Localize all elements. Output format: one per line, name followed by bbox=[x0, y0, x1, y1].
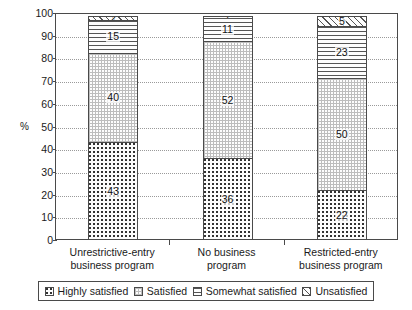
bar-value-label: 22 bbox=[335, 210, 349, 221]
legend-swatch-pattern bbox=[303, 288, 310, 295]
y-tick-label: 50 bbox=[27, 122, 53, 132]
stacked-bar-chart: % 1009080706050403020100 215404311152365… bbox=[0, 0, 412, 310]
bar-segment: 11 bbox=[203, 17, 253, 42]
bar-value-label: 23 bbox=[335, 47, 349, 58]
y-tick-label: 0 bbox=[27, 235, 53, 245]
bar-value-label: 11 bbox=[221, 24, 234, 35]
y-tick-label: 20 bbox=[27, 190, 53, 200]
bar-value-label: 43 bbox=[106, 186, 120, 197]
y-axis-ticks: 1009080706050403020100 bbox=[22, 13, 53, 240]
stacked-bar: 5235022 bbox=[317, 16, 367, 239]
legend-label: Satisfied bbox=[147, 285, 187, 297]
legend-swatch-icon bbox=[193, 287, 202, 296]
legend-swatch-pattern bbox=[46, 288, 53, 295]
bar-segment: 22 bbox=[317, 190, 367, 240]
bar-segment: 36 bbox=[203, 158, 253, 240]
chart-legend: Highly satisfiedSatisfiedSomewhat satisf… bbox=[38, 281, 374, 301]
y-tick-label: 100 bbox=[27, 8, 53, 18]
legend-item[interactable]: Satisfied bbox=[134, 285, 187, 297]
legend-label: Unsatisfied bbox=[315, 285, 367, 297]
bar-segment: 5 bbox=[317, 16, 367, 27]
legend-swatch-icon bbox=[302, 287, 311, 296]
plot-area: 215404311152365235022 bbox=[55, 13, 398, 240]
y-tick-label: 80 bbox=[27, 53, 53, 63]
y-tick-label: 40 bbox=[27, 144, 53, 154]
bar-segment: 15 bbox=[88, 20, 138, 54]
bar-value-label: 15 bbox=[106, 31, 120, 42]
y-tick-label: 70 bbox=[27, 76, 53, 86]
y-tick-label: 10 bbox=[27, 212, 53, 222]
bar-segment: 50 bbox=[317, 78, 367, 192]
y-tick-label: 60 bbox=[27, 99, 53, 109]
bar-segment: 52 bbox=[203, 41, 253, 159]
legend-swatch-icon bbox=[134, 287, 143, 296]
stacked-bar: 2154043 bbox=[88, 16, 138, 239]
bar-segment: 40 bbox=[88, 53, 138, 144]
x-tick-mark bbox=[169, 240, 170, 245]
legend-label: Highly satisfied bbox=[58, 285, 129, 297]
bar-value-label: 5 bbox=[338, 16, 346, 27]
bar-value-label: 50 bbox=[335, 129, 349, 140]
legend-swatch-pattern bbox=[194, 288, 201, 295]
x-category-label-line: Restricted-entry bbox=[266, 246, 412, 259]
legend-item[interactable]: Somewhat satisfied bbox=[193, 285, 297, 297]
legend-item[interactable]: Highly satisfied bbox=[45, 285, 129, 297]
x-category-label-line: business program bbox=[266, 259, 412, 272]
legend-item[interactable]: Unsatisfied bbox=[302, 285, 367, 297]
bar-value-label: 52 bbox=[221, 95, 235, 106]
y-tick-label: 90 bbox=[27, 31, 53, 41]
legend-swatch-icon bbox=[45, 287, 54, 296]
bar-segment: 43 bbox=[88, 142, 138, 240]
y-tick-label: 30 bbox=[27, 167, 53, 177]
legend-label: Somewhat satisfied bbox=[206, 285, 297, 297]
bar-value-label: 40 bbox=[106, 92, 120, 103]
legend-swatch-pattern bbox=[135, 288, 142, 295]
x-category-label: Restricted-entrybusiness program bbox=[266, 246, 412, 272]
y-tick-mark bbox=[53, 240, 57, 241]
bar-value-label: 36 bbox=[221, 194, 235, 205]
bar-segment: 23 bbox=[317, 26, 367, 78]
x-tick-mark bbox=[284, 240, 285, 245]
stacked-bar: 1115236 bbox=[203, 16, 253, 239]
